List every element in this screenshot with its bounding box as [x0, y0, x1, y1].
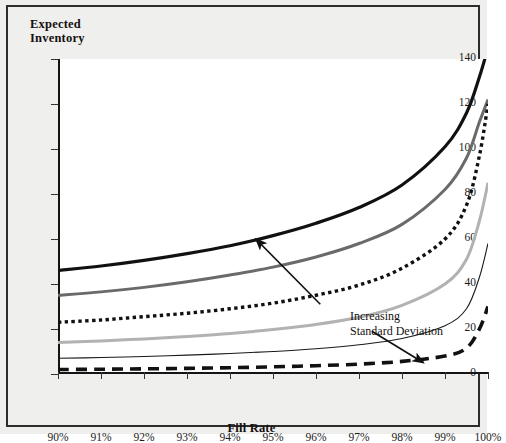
- arrow-up-left: [256, 239, 320, 304]
- y-tick: [51, 59, 58, 60]
- y-axis-title-line1: Expected: [30, 17, 85, 31]
- y-tick: [51, 149, 58, 150]
- y-tick: [51, 104, 58, 105]
- figure-frame: Expected Inventory 020406080100120140 90…: [6, 5, 480, 427]
- y-axis-title-line2: Inventory: [30, 31, 85, 45]
- y-tick: [51, 284, 58, 285]
- y-tick: [51, 374, 58, 375]
- x-axis-title: Fill Rate: [8, 421, 495, 436]
- annotation-label: Increasing Standard Deviation: [350, 309, 443, 339]
- x-tick: [488, 372, 489, 379]
- annotation-line2: Standard Deviation: [350, 324, 443, 339]
- annotation-line1: Increasing: [350, 309, 443, 324]
- y-tick: [51, 239, 58, 240]
- plot-area: 020406080100120140 90%91%92%93%94%95%96%…: [58, 59, 488, 374]
- y-tick: [51, 194, 58, 195]
- y-tick: [51, 329, 58, 330]
- y-axis-title: Expected Inventory: [30, 17, 85, 45]
